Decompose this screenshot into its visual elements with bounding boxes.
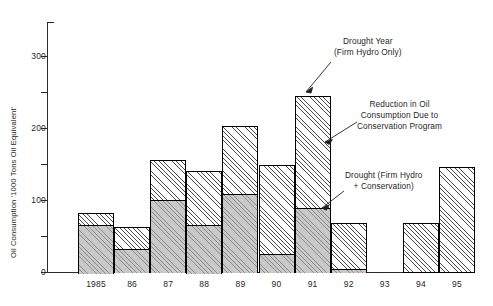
leader-drought-conservation — [322, 191, 344, 210]
leader-conservation-reduction — [325, 122, 357, 145]
oil-consumption-bar-chart: 0 100 200 300 Oil Consumption '1000 Tons… — [0, 0, 493, 306]
leader-drought-year — [306, 62, 331, 93]
annotation-leader-lines — [0, 0, 493, 306]
